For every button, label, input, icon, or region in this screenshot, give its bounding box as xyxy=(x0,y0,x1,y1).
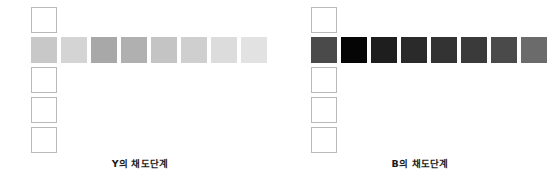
swatch-cluster-b xyxy=(311,7,541,153)
column-swatch-empty xyxy=(31,67,57,93)
swatch-cluster-y xyxy=(31,7,261,153)
row-swatch-step-8 xyxy=(241,37,267,63)
panel-y: Y의 채도단계 xyxy=(0,0,280,181)
row-swatch-step-2 xyxy=(341,37,367,63)
row-swatch-step-5 xyxy=(431,37,457,63)
panel-b: B의 채도단계 xyxy=(280,0,560,181)
column-swatch-empty xyxy=(311,97,337,123)
row-swatch-step-2 xyxy=(61,37,87,63)
row-swatch-step-3 xyxy=(91,37,117,63)
column-swatch-empty xyxy=(311,7,337,33)
row-swatch-step-7 xyxy=(211,37,237,63)
column-swatch-filled xyxy=(31,37,57,63)
row-swatch-step-6 xyxy=(181,37,207,63)
column-swatch-empty xyxy=(311,127,337,153)
saturation-step-figure: Y의 채도단계 B의 채도단계 xyxy=(0,0,560,181)
row-swatch-step-4 xyxy=(401,37,427,63)
panel-caption-b: B의 채도단계 xyxy=(280,158,560,170)
column-swatch-empty xyxy=(311,67,337,93)
row-swatch-step-5 xyxy=(151,37,177,63)
row-swatch-step-7 xyxy=(491,37,517,63)
row-swatch-step-6 xyxy=(461,37,487,63)
panel-caption-y: Y의 채도단계 xyxy=(0,158,280,170)
row-swatch-step-8 xyxy=(521,37,547,63)
row-swatch-step-3 xyxy=(371,37,397,63)
column-swatch-empty xyxy=(31,97,57,123)
column-swatch-empty xyxy=(31,127,57,153)
row-swatch-step-4 xyxy=(121,37,147,63)
column-swatch-filled xyxy=(311,37,337,63)
column-swatch-empty xyxy=(31,7,57,33)
